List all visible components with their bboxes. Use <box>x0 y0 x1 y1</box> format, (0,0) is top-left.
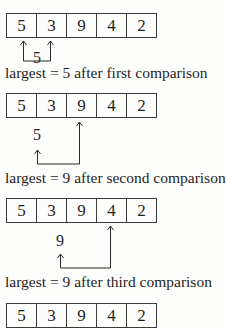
arrow-up-icon <box>58 226 114 268</box>
arrow-up-icon <box>35 122 83 164</box>
arrow-up-icon <box>21 41 54 61</box>
